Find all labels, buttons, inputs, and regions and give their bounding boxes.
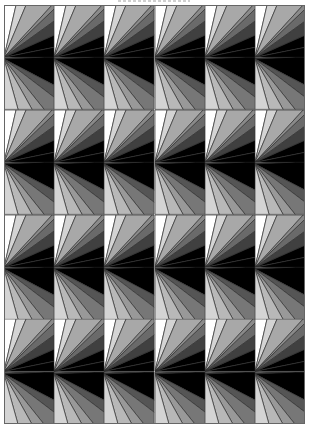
fan-down-tile xyxy=(255,162,305,214)
fan-down-tile xyxy=(4,372,54,424)
fan-up-tile xyxy=(4,215,54,267)
fan-down-tile xyxy=(205,57,255,109)
fan-up-tile xyxy=(255,319,305,371)
fan-up-tile xyxy=(155,215,205,267)
fan-down-tile xyxy=(54,162,104,214)
fan-down-tile xyxy=(104,57,154,109)
fan-up-tile xyxy=(205,5,255,57)
fan-down-tile xyxy=(104,372,154,424)
fan-down-tile xyxy=(54,267,104,319)
fan-up-tile xyxy=(255,5,305,57)
fan-down-tile xyxy=(155,162,205,214)
fan-up-tile xyxy=(104,5,154,57)
fan-up-tile xyxy=(54,110,104,162)
fan-down-tile xyxy=(54,372,104,424)
fan-down-tile xyxy=(205,267,255,319)
fan-up-tile xyxy=(4,5,54,57)
fan-up-tile xyxy=(155,110,205,162)
fan-up-tile xyxy=(155,5,205,57)
fan-up-tile xyxy=(205,215,255,267)
fan-down-tile xyxy=(4,162,54,214)
fan-up-tile xyxy=(205,110,255,162)
fan-up-tile xyxy=(104,319,154,371)
fan-up-tile xyxy=(54,5,104,57)
fan-down-tile xyxy=(205,372,255,424)
fan-up-tile xyxy=(255,215,305,267)
fan-up-tile xyxy=(205,319,255,371)
fan-up-tile xyxy=(155,319,205,371)
fan-down-tile xyxy=(4,267,54,319)
clipped-caption xyxy=(118,0,190,3)
fan-up-tile xyxy=(255,110,305,162)
fan-down-tile xyxy=(104,267,154,319)
fan-up-tile xyxy=(54,215,104,267)
fan-down-tile xyxy=(4,57,54,109)
fan-down-tile xyxy=(104,162,154,214)
fan-down-tile xyxy=(155,372,205,424)
fan-up-tile xyxy=(54,319,104,371)
fan-down-tile xyxy=(255,57,305,109)
fan-up-tile xyxy=(4,319,54,371)
fan-down-tile xyxy=(205,162,255,214)
fan-up-tile xyxy=(4,110,54,162)
fan-down-tile xyxy=(54,57,104,109)
fan-up-tile xyxy=(104,215,154,267)
fan-down-tile xyxy=(255,267,305,319)
fan-down-tile xyxy=(155,267,205,319)
fan-tile-grid xyxy=(4,5,305,424)
fan-up-tile xyxy=(104,110,154,162)
fan-down-tile xyxy=(255,372,305,424)
fan-down-tile xyxy=(155,57,205,109)
